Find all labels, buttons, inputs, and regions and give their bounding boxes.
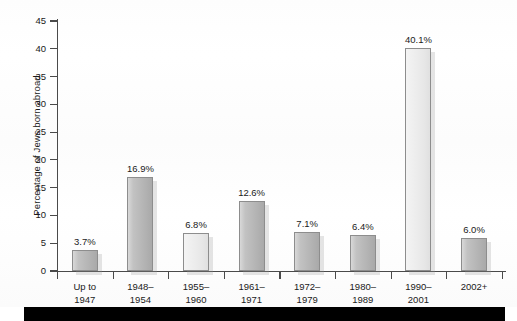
x-axis-label-line: 1947 xyxy=(55,294,115,307)
x-axis-category-label: 2002+ xyxy=(444,281,504,294)
bar-5[interactable] xyxy=(294,232,320,271)
y-axis-tick-label: 5 xyxy=(24,237,46,248)
bar-8[interactable] xyxy=(461,238,487,271)
y-axis-tick xyxy=(50,187,57,188)
x-axis-label-line: 1990– xyxy=(388,281,448,294)
bar-1[interactable] xyxy=(72,250,98,271)
y-axis-tick xyxy=(50,159,57,160)
x-axis-label-line: Up to xyxy=(55,281,115,294)
y-axis-tick xyxy=(50,243,57,244)
bar-value-label: 6.0% xyxy=(448,224,500,235)
bar-value-label: 40.1% xyxy=(392,34,444,45)
chart-figure: Percentage of Jews born abroad 051015202… xyxy=(0,0,517,321)
x-axis-label-line: 1971 xyxy=(222,294,282,307)
x-axis-category-label: Up to1947 xyxy=(55,281,115,306)
y-axis-tick-label: 15 xyxy=(24,182,46,193)
y-axis-tick-label: 40 xyxy=(24,43,46,54)
x-axis-label-line: 1980– xyxy=(333,281,393,294)
x-axis-tick xyxy=(224,272,225,279)
bar-value-label: 3.7% xyxy=(59,236,111,247)
y-axis-tick xyxy=(50,132,57,133)
x-axis-tick xyxy=(113,272,114,279)
x-axis-tick xyxy=(57,272,58,279)
x-axis-label-line: 1979 xyxy=(277,294,337,307)
x-axis-line xyxy=(57,271,506,272)
bar-value-label: 6.8% xyxy=(170,219,222,230)
y-axis-tick-label: 20 xyxy=(24,154,46,165)
y-axis-tick xyxy=(50,48,57,49)
bar-7[interactable] xyxy=(405,48,431,271)
bar-3[interactable] xyxy=(183,233,209,271)
x-axis-category-label: 1955–1960 xyxy=(166,281,226,306)
y-axis-tick xyxy=(50,104,57,105)
y-axis-tick-label: 45 xyxy=(24,15,46,26)
y-axis-tick-label: 10 xyxy=(24,209,46,220)
x-axis-category-label: 1972–1979 xyxy=(277,281,337,306)
bar-value-label: 12.6% xyxy=(226,187,278,198)
y-axis-tick-label: 30 xyxy=(24,98,46,109)
x-axis-label-line: 1989 xyxy=(333,294,393,307)
x-axis-label-line: 1948– xyxy=(110,281,170,294)
y-axis-tick xyxy=(50,20,57,21)
x-axis-label-line: 2002+ xyxy=(444,281,504,294)
bar-value-label: 16.9% xyxy=(114,163,166,174)
x-axis-tick xyxy=(391,272,392,279)
x-axis-category-label: 1980–1989 xyxy=(333,281,393,306)
y-axis-tick xyxy=(50,76,57,77)
x-axis-label-line: 1955– xyxy=(166,281,226,294)
y-axis-tick xyxy=(50,215,57,216)
y-axis-tick xyxy=(50,270,57,271)
x-axis-tick xyxy=(335,272,336,279)
bar-value-label: 7.1% xyxy=(281,218,333,229)
x-axis-tick xyxy=(502,272,503,279)
x-axis-tick xyxy=(446,272,447,279)
x-axis-tick xyxy=(168,272,169,279)
bar-value-label: 6.4% xyxy=(337,221,389,232)
x-axis-category-label: 1990–2001 xyxy=(388,281,448,306)
y-axis-tick-label: 0 xyxy=(24,265,46,276)
bar-4[interactable] xyxy=(239,201,265,271)
x-axis-label-line: 1961– xyxy=(222,281,282,294)
bar-6[interactable] xyxy=(350,235,376,271)
x-axis-tick xyxy=(279,272,280,279)
footer-black-bar xyxy=(24,307,505,321)
x-axis-label-line: 2001 xyxy=(388,294,448,307)
y-axis-tick-label: 25 xyxy=(24,126,46,137)
bar-2[interactable] xyxy=(127,177,153,271)
y-axis-tick-label: 35 xyxy=(24,71,46,82)
x-axis-category-label: 1961–1971 xyxy=(222,281,282,306)
x-axis-label-line: 1960 xyxy=(166,294,226,307)
x-axis-label-line: 1954 xyxy=(110,294,170,307)
y-axis-line xyxy=(57,19,58,272)
x-axis-category-label: 1948–1954 xyxy=(110,281,170,306)
x-axis-label-line: 1972– xyxy=(277,281,337,294)
